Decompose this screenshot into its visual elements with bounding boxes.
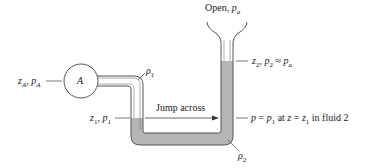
- z2-p2-label: z2, p2 ≈ pa: [252, 55, 292, 71]
- manometer-drawing: [0, 0, 367, 168]
- z1-p1-label: z1, p1: [90, 112, 111, 128]
- tube-outer-wall: [97, 22, 221, 133]
- rho2-label: ρ2: [238, 150, 246, 166]
- bulb-a-label: A: [77, 75, 83, 87]
- leader-rho2: [228, 140, 238, 150]
- open-label: Open, pa: [205, 2, 240, 18]
- equation-label: p = p1 at z = z1 in fluid 2: [251, 112, 348, 128]
- rho1-label: ρ1: [146, 65, 154, 81]
- jump-across-label: Jump across: [156, 102, 205, 114]
- zA-pA-label: zA, pA: [18, 75, 40, 91]
- arrowhead-icon: [212, 116, 219, 121]
